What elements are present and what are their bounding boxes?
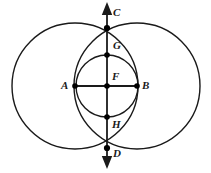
point-label-f: F	[112, 71, 119, 82]
arrow-up-icon	[102, 2, 112, 15]
point-label-b: B	[142, 80, 149, 91]
point-label-d: D	[113, 148, 121, 159]
point-marker-b	[134, 83, 140, 89]
point-marker-h	[104, 114, 110, 120]
point-marker-f	[104, 83, 110, 89]
arrow-down-icon	[102, 156, 112, 169]
point-marker-g	[104, 52, 110, 58]
point-marker-c	[104, 25, 110, 31]
geometry-figure: C G F A B H D	[0, 0, 211, 173]
point-marker-a	[72, 83, 78, 89]
point-label-h: H	[112, 119, 121, 130]
geometry-canvas	[0, 0, 211, 173]
point-label-g: G	[113, 40, 121, 51]
point-marker-d	[104, 145, 110, 151]
point-label-c: C	[113, 7, 120, 18]
point-label-a: A	[61, 80, 68, 91]
